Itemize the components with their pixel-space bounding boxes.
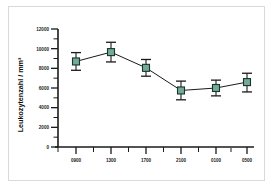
x-axis-major-ticks [76, 147, 247, 154]
data-point-marker [108, 49, 115, 56]
y-tick-label-8000: 8000 [39, 66, 50, 71]
chart-plot-area: Leukozytenzahl / mm³ [9, 7, 266, 182]
figure-frame: Leukozytenzahl / mm³ [8, 6, 265, 181]
y-tick-label-6000: 6000 [39, 86, 50, 91]
y-tick-label-10000: 10000 [36, 47, 49, 52]
x-tick-label-1300: 1300 [106, 158, 117, 163]
data-point-marker [244, 79, 251, 86]
y-tick-label-2000: 2000 [39, 125, 50, 130]
y-tick-label-4000: 4000 [39, 105, 50, 110]
data-point-marker [143, 64, 150, 71]
y-axis-title: Leukozytenzahl / mm³ [16, 57, 25, 132]
y-axis-major-ticks [51, 29, 58, 147]
x-tick-label-0100: 0100 [211, 158, 222, 163]
y-tick-label-12000: 12000 [36, 27, 49, 32]
error-bars-group [71, 42, 252, 100]
x-tick-label-0900: 0900 [71, 158, 82, 163]
leukocyte-count-line-chart: Leukozytenzahl / mm³ [9, 7, 266, 182]
data-point-marker [73, 58, 80, 65]
data-point-marker [178, 87, 185, 94]
series-line [76, 52, 247, 90]
x-tick-label-2100: 2100 [176, 158, 187, 163]
x-tick-label-1700: 1700 [141, 158, 152, 163]
data-point-marker [213, 85, 220, 92]
x-tick-label-0500: 0500 [242, 158, 253, 163]
y-tick-label-0: 0 [46, 145, 49, 150]
